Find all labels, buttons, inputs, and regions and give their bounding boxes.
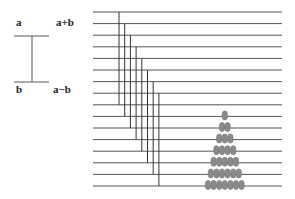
horizontal-lines: [93, 12, 282, 186]
label-a: a: [16, 16, 22, 28]
ball: [239, 181, 244, 190]
ball: [233, 181, 238, 190]
ball: [219, 169, 224, 178]
ball: [225, 123, 230, 132]
ball: [222, 157, 227, 166]
label-b: b: [16, 83, 22, 95]
ball: [211, 181, 216, 190]
ball: [233, 157, 238, 166]
ball: [219, 146, 224, 155]
ball: [217, 157, 222, 166]
ball: [219, 123, 224, 132]
ball: [228, 157, 233, 166]
ball: [236, 169, 241, 178]
ball: [222, 181, 227, 190]
ball: [225, 169, 230, 178]
vertical-bars: [119, 12, 159, 186]
diagram-canvas: a a+b b a−b: [0, 0, 295, 199]
label-a-minus-b: a−b: [53, 83, 71, 95]
ball: [208, 169, 213, 178]
legend: a a+b b a−b: [14, 16, 74, 95]
ball: [228, 134, 233, 143]
ball: [217, 134, 222, 143]
ball: [225, 146, 230, 155]
ball: [205, 181, 210, 190]
ball: [214, 146, 219, 155]
ball: [214, 169, 219, 178]
ball: [217, 181, 222, 190]
label-a-plus-b: a+b: [56, 16, 74, 28]
ball: [211, 157, 216, 166]
ball: [231, 169, 236, 178]
ball: [228, 181, 233, 190]
ball: [231, 146, 236, 155]
ball: [222, 134, 227, 143]
ball-stack: [205, 111, 244, 190]
ball: [222, 111, 227, 120]
